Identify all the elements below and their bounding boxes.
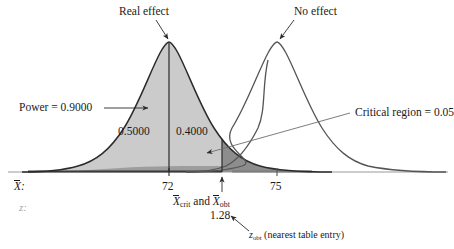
power-analysis-figure: Real effect No effect Power = 0.9000 Cri… — [0, 0, 454, 249]
label-no-effect: No effect — [294, 6, 337, 18]
axis-label-z: z: — [19, 202, 27, 213]
xbar-glyph: X — [14, 180, 21, 192]
label-power: Power = 0.9000 — [19, 102, 92, 114]
xobt-subscript: obt — [220, 200, 230, 209]
overbar — [14, 180, 20, 181]
leader-critical-region — [207, 113, 350, 153]
tick-label-72: 72 — [162, 181, 174, 193]
xcrit-conjunction: and — [190, 195, 212, 207]
overbar — [213, 195, 219, 196]
zobt-subscript: obt — [253, 234, 262, 241]
xobt-glyph: X — [213, 195, 220, 207]
zobt-caption-text: (nearest table entry) — [262, 229, 344, 240]
leader-real-effect — [156, 20, 168, 39]
label-area-left: 0.5000 — [118, 126, 150, 138]
xcrit-glyph: X — [173, 195, 180, 207]
label-z-value: 1.28 — [210, 210, 230, 222]
label-critical-region: Critical region = 0.05 — [355, 107, 454, 119]
overbar — [173, 195, 179, 196]
label-area-right: 0.4000 — [176, 126, 208, 138]
xbar-colon: : — [21, 180, 25, 192]
leader-zobt — [231, 216, 249, 231]
axis-label-xbar: X: — [14, 181, 25, 193]
label-xcrit-and-xobt: Xcrit and Xobt — [173, 196, 230, 208]
leader-no-effect — [280, 20, 294, 39]
tick-label-75: 75 — [270, 181, 282, 193]
label-zobt-caption: zobt (nearest table entry) — [249, 230, 344, 240]
label-real-effect: Real effect — [119, 6, 169, 18]
xcrit-subscript: crit — [180, 200, 190, 209]
